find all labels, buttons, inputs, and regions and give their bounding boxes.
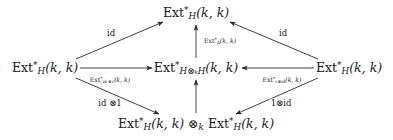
node-bottom-ext-symbol-2: Ext — [208, 116, 229, 131]
node-center-subscript: H⊗ₖH — [180, 66, 206, 76]
node-top-ext-h: Ext*H(k, k) — [161, 6, 231, 21]
arrow-label-left-to-center: Ext*id ⊗ε(k, k) — [89, 77, 131, 83]
label-delta-args: (k, k) — [220, 37, 236, 44]
label-ideps-subscript: id ⊗ε — [103, 79, 114, 84]
label-epsid-subscript: ε⊗id — [275, 79, 285, 84]
node-top-args: (k, k) — [196, 5, 229, 20]
arrow-label-left-to-top: id — [106, 29, 116, 38]
label-epsid-ext-symbol: Ext — [262, 76, 273, 83]
commutative-diagram: Ext*H(k, k) Ext*H(k, k) Ext*H⊗ₖH(k, k) E… — [0, 0, 393, 140]
node-bottom-tensor-symbol: ⊗ — [188, 116, 198, 131]
arrow-left-to-bottom-id-tensor-one — [76, 78, 159, 114]
node-center-ext-h-tensor-h: Ext*H⊗ₖH(k, k) — [152, 61, 240, 76]
node-bottom-ext-tensor-ext: Ext*H(k, k) ⊗k Ext*H(k, k) — [116, 117, 276, 132]
arrow-right-to-top-id — [230, 22, 318, 59]
arrow-left-to-top-id — [76, 22, 163, 59]
label-ideps-ext-symbol: Ext — [90, 76, 101, 83]
arrow-label-left-to-bottom: id ⊗1 — [97, 99, 122, 108]
node-center-ext-symbol: Ext — [154, 60, 175, 75]
arrow-label-right-to-top: id — [278, 29, 288, 38]
node-bottom-args-2: (k, k) — [241, 116, 274, 131]
label-delta-ext-symbol: Ext — [204, 37, 215, 44]
arrow-label-right-to-center: Ext*ε⊗id(k, k) — [261, 77, 302, 83]
node-left-args: (k, k) — [45, 60, 78, 75]
node-left-ext-symbol: Ext — [12, 60, 33, 75]
node-bottom-ext-symbol-1: Ext — [118, 116, 139, 131]
label-epsid-args: (k, k) — [285, 76, 301, 83]
node-center-args: (k, k) — [205, 60, 238, 75]
node-right-args: (k, k) — [349, 60, 382, 75]
node-left-ext-h: Ext*H(k, k) — [10, 61, 80, 76]
node-right-ext-symbol: Ext — [316, 60, 337, 75]
node-right-ext-h: Ext*H(k, k) — [314, 61, 384, 76]
node-top-ext-symbol: Ext — [163, 5, 184, 20]
arrow-label-right-to-bottom: 1⊗id — [270, 99, 293, 108]
node-bottom-args-1: (k, k) — [151, 116, 184, 131]
label-ideps-args: (k, k) — [114, 76, 130, 83]
arrow-label-center-to-top: Ext*Δ(k, k) — [203, 38, 237, 44]
